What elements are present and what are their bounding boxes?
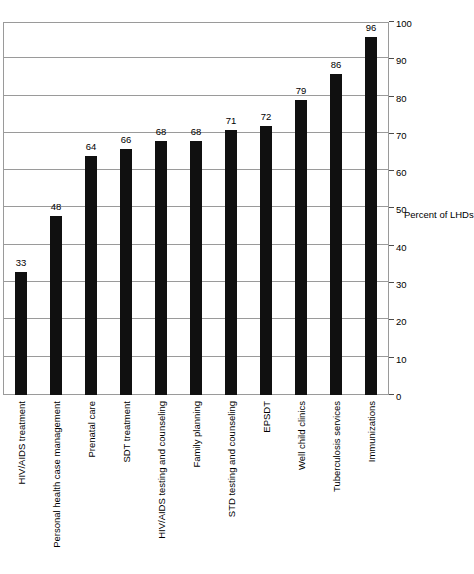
axis-tick-label: 100: [396, 18, 412, 29]
axis-tick-label: 70: [396, 130, 407, 141]
axis-tick-mark: [389, 96, 394, 97]
bar-value-label: 68: [156, 127, 167, 137]
bars-layer: 3348646668687172798696: [3, 22, 389, 395]
bar: 68: [190, 22, 202, 395]
bar-rect: [295, 100, 307, 395]
category-label: Personal health case management: [50, 401, 61, 548]
bar: 66: [120, 22, 132, 395]
category-label: SDT treatment: [120, 401, 131, 463]
axis-tick-label: 20: [396, 316, 407, 327]
bar-value-label: 48: [50, 202, 61, 212]
category-label: HIV/AIDS treatment: [15, 401, 26, 484]
bar-value-label: 96: [366, 23, 377, 33]
bar-rect: [225, 130, 237, 395]
bar: 86: [330, 22, 342, 395]
bar-value-label: 79: [296, 86, 307, 96]
bar: 48: [50, 22, 62, 395]
category-label: Well child clinics: [296, 401, 307, 470]
category-label: EPSDT: [261, 401, 272, 433]
bar-rect: [155, 141, 167, 395]
bar-rect: [85, 156, 97, 395]
axis-tick-label: 90: [396, 55, 407, 66]
category-label: Tuberculosis services: [331, 401, 342, 492]
bar: 72: [260, 22, 272, 395]
axis-tick-label: 0: [396, 391, 401, 402]
axis-tick-label: 30: [396, 279, 407, 290]
axis-tick-mark: [389, 394, 394, 395]
axis-tick-mark: [389, 133, 394, 134]
bar-rect: [260, 126, 272, 395]
bar-value-label: 68: [191, 127, 202, 137]
axis-tick-mark: [389, 21, 394, 22]
bar: 96: [365, 22, 377, 395]
axis-tick-mark: [389, 245, 394, 246]
bar-rect: [330, 74, 342, 395]
category-label: Immunizations: [366, 401, 377, 462]
bar-rect: [365, 37, 377, 395]
axis-tick-mark: [389, 319, 394, 320]
bar-value-label: 66: [121, 135, 132, 145]
bar-value-label: 86: [331, 60, 342, 70]
bar: 68: [155, 22, 167, 395]
category-label: Prenatal care: [85, 401, 96, 458]
bar-rect: [120, 149, 132, 395]
axis-tick-label: 60: [396, 167, 407, 178]
axis-tick-mark: [389, 282, 394, 283]
bar-value-label: 64: [85, 142, 96, 152]
axis-tick-mark: [389, 170, 394, 171]
category-axis: HIV/AIDS treatmentPersonal health case m…: [3, 395, 389, 574]
category-label: STD testing and counseling: [226, 401, 237, 517]
axis-tick-label: 40: [396, 242, 407, 253]
axis-tick-label: 10: [396, 354, 407, 365]
bar: 33: [15, 22, 27, 395]
bar-rect: [50, 216, 62, 395]
bar-rect: [190, 141, 202, 395]
axis-tick-mark: [389, 208, 394, 209]
bar-value-label: 71: [226, 116, 237, 126]
category-label: Family planning: [191, 401, 202, 468]
bar: 79: [295, 22, 307, 395]
axis-tick-label: 80: [396, 93, 407, 104]
bar: 71: [225, 22, 237, 395]
axis-tick-mark: [389, 58, 394, 59]
category-label: HIV/AIDS testing and counseling: [155, 401, 166, 539]
axis-tick-mark: [389, 357, 394, 358]
value-axis-title: Percent of LHDs: [404, 209, 474, 220]
bar: 64: [85, 22, 97, 395]
bar-rect: [15, 272, 27, 395]
bar-value-label: 33: [15, 258, 26, 268]
bar-value-label: 72: [261, 112, 272, 122]
